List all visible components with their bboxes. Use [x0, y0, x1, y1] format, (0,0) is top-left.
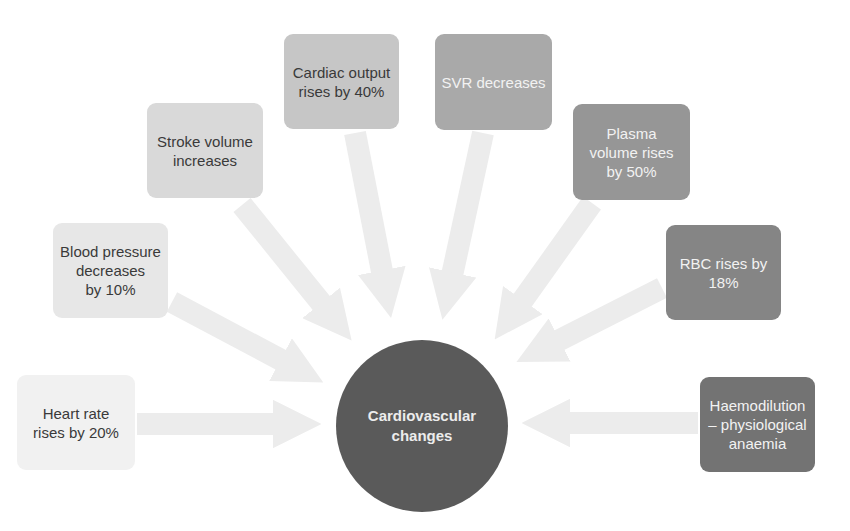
node-cardiac-output: Cardiac output rises by 40% — [284, 34, 399, 129]
node-stroke-volume: Stroke volume increases — [147, 103, 263, 198]
arrow-svr — [448, 133, 483, 294]
node-label-line: by 10% — [60, 280, 161, 299]
node-label-line: 18% — [680, 273, 768, 292]
cardiovascular-changes-diagram: Heart rate rises by 20% Blood pressure d… — [0, 0, 850, 531]
node-blood-pressure: Blood pressure decreases by 10% — [53, 223, 168, 318]
node-label-line: Plasma — [589, 124, 673, 143]
node-label-line: rises by 20% — [33, 423, 119, 442]
node-rbc: RBC rises by 18% — [666, 225, 781, 320]
node-label-line: decreases — [60, 261, 161, 280]
node-label-line: by 50% — [589, 162, 673, 181]
node-label-line: volume rises — [589, 143, 673, 162]
node-label-line: – physiological — [708, 415, 806, 434]
arrow-blood-pressure — [172, 302, 300, 370]
node-heart-rate: Heart rate rises by 20% — [17, 375, 135, 470]
node-label-line: Blood pressure — [60, 242, 161, 261]
hub-cardiovascular-changes: Cardiovascular changes — [336, 340, 508, 512]
node-label-line: SVR decreases — [441, 73, 545, 92]
hub-label-line: Cardiovascular — [368, 406, 476, 426]
node-label-line: RBC rises by — [680, 254, 768, 273]
node-plasma-volume: Plasma volume rises by 50% — [573, 104, 690, 200]
node-label-line: Cardiac output — [293, 63, 391, 82]
arrow-rbc — [540, 288, 662, 350]
arrow-plasma-volume — [510, 203, 592, 318]
hub-label-line: changes — [368, 426, 476, 446]
arrow-stroke-volume — [242, 205, 335, 320]
node-label-line: rises by 40% — [293, 82, 391, 101]
node-svr: SVR decreases — [435, 34, 552, 130]
node-label-line: Heart rate — [33, 404, 119, 423]
node-label-line: Haemodilution — [708, 396, 806, 415]
arrow-cardiac-output — [355, 133, 386, 292]
node-label-line: anaemia — [708, 434, 806, 453]
node-label-line: increases — [157, 151, 253, 170]
node-label-line: Stroke volume — [157, 132, 253, 151]
node-haemodilution: Haemodilution – physiological anaemia — [700, 377, 815, 472]
